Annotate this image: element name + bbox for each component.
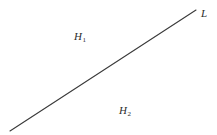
- geometry-figure: H1 H2 L: [0, 0, 217, 135]
- label-upper-half-plane-base: H: [74, 30, 82, 42]
- label-lower-half-plane-subscript: 2: [127, 110, 131, 118]
- label-line-L: L: [201, 4, 207, 20]
- figure-canvas: [0, 0, 217, 135]
- label-upper-half-plane-subscript: 1: [82, 36, 86, 44]
- label-lower-half-plane-base: H: [119, 104, 127, 116]
- label-line-L-base: L: [201, 7, 207, 19]
- label-lower-half-plane: H2: [119, 101, 130, 117]
- label-upper-half-plane: H1: [74, 27, 85, 43]
